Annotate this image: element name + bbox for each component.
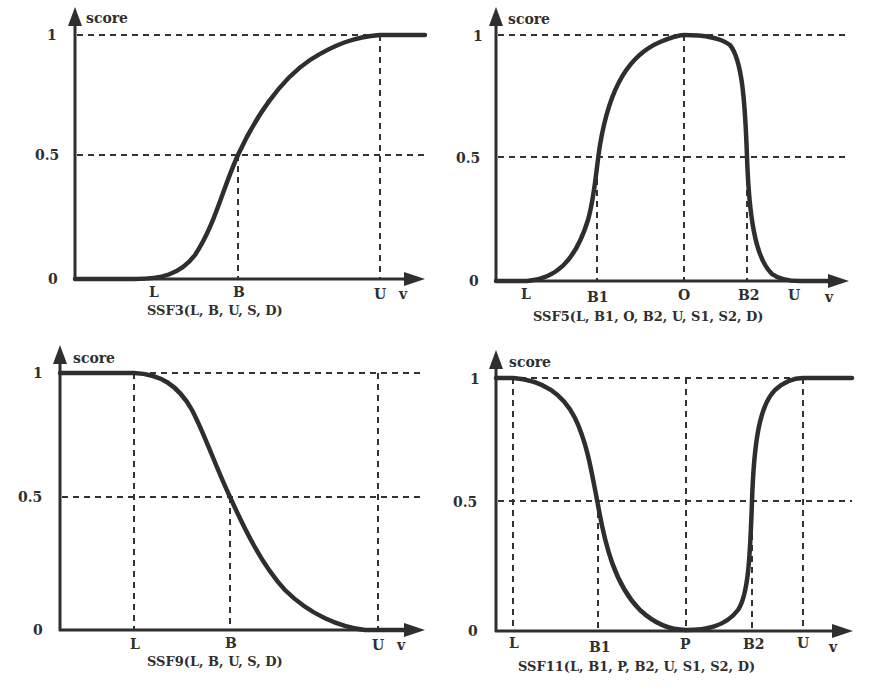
xtick-b1: B1 xyxy=(587,289,609,305)
caption-ssf5: SSF5(L, B1, O, B2, U, S1, S2, D) xyxy=(533,309,763,324)
y-axis-arrow-icon xyxy=(489,350,503,369)
xtick-b: B xyxy=(225,635,237,651)
caption-ssf3: SSF3(L, B, U, S, D) xyxy=(147,303,283,318)
x-axis-arrow-icon xyxy=(832,624,853,638)
xtick-p: P xyxy=(680,636,691,652)
panel-ssf5: score 1 0.5 0 L B1 O B2 U v SSF5(L, B1, … xyxy=(456,7,849,324)
curve-ssf11 xyxy=(496,378,852,630)
ssf-figure: score 1 0.5 0 L B U v SSF3(L, B, U, S, D… xyxy=(0,0,869,694)
xtick-b: B xyxy=(233,284,245,300)
xtick-l: L xyxy=(521,286,531,302)
y-axis-label: score xyxy=(508,11,550,27)
ytick-1: 1 xyxy=(473,28,483,44)
caption-ssf9: SSF9(L, B, U, S, D) xyxy=(147,654,283,669)
x-axis-label: v xyxy=(398,286,408,302)
ytick-0: 0 xyxy=(33,622,43,638)
xtick-o: O xyxy=(678,287,690,303)
panel-ssf9: score 1 0.5 0 L B U v SSF9(L, B, U, S, D… xyxy=(18,345,425,669)
xtick-u: U xyxy=(372,637,384,653)
y-axis-label: score xyxy=(73,350,115,366)
ytick-1: 1 xyxy=(47,27,57,43)
xtick-l: L xyxy=(149,284,159,300)
panel-ssf11: score 1 0.5 0 L B1 P B2 U v SSF11(L, B1,… xyxy=(453,350,853,674)
ytick-0.5: 0.5 xyxy=(18,489,42,505)
ytick-1: 1 xyxy=(470,371,480,387)
y-axis-arrow-icon xyxy=(489,7,503,26)
xtick-b2: B2 xyxy=(743,636,765,652)
y-axis-arrow-icon xyxy=(53,345,67,364)
curve-ssf3 xyxy=(75,35,425,279)
xtick-b2: B2 xyxy=(738,287,760,303)
ytick-0: 0 xyxy=(48,271,58,287)
xtick-u: U xyxy=(797,635,809,651)
ytick-0.5: 0.5 xyxy=(453,494,477,510)
y-axis-label: score xyxy=(509,354,551,370)
caption-ssf11: SSF11(L, B1, P, B2, U, S1, S2, D) xyxy=(518,659,755,674)
y-axis-label: score xyxy=(86,10,128,26)
y-axis-arrow-icon xyxy=(68,7,82,26)
curve-ssf9 xyxy=(60,373,408,630)
x-axis-label: v xyxy=(396,637,406,653)
xtick-u: U xyxy=(374,286,386,302)
ytick-0: 0 xyxy=(469,273,479,289)
xtick-u: U xyxy=(788,287,800,303)
x-axis-label: v xyxy=(824,289,834,305)
panel-ssf3: score 1 0.5 0 L B U v SSF3(L, B, U, S, D… xyxy=(35,7,425,318)
x-axis-label: v xyxy=(828,639,838,655)
xtick-b1: B1 xyxy=(589,639,611,655)
ytick-1: 1 xyxy=(33,365,43,381)
ytick-0.5: 0.5 xyxy=(456,150,480,166)
xtick-l: L xyxy=(509,635,519,651)
x-axis-arrow-icon xyxy=(404,272,425,286)
ytick-0: 0 xyxy=(468,623,478,639)
xtick-l: L xyxy=(130,636,140,652)
ytick-0.5: 0.5 xyxy=(35,147,59,163)
